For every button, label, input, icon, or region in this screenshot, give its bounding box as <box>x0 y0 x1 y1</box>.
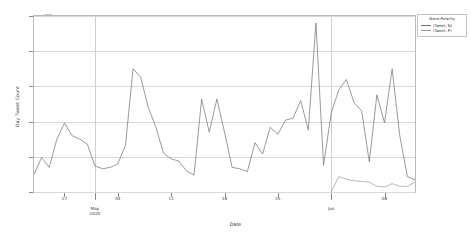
x-month-label: Jun <box>328 206 335 211</box>
x-tick-mark <box>171 193 172 197</box>
x-tick-mark <box>64 193 65 197</box>
x-tick-label: 08 <box>382 197 387 201</box>
series-svg <box>34 16 415 192</box>
series-line <box>34 23 415 188</box>
x-tick-label: 27 <box>62 197 67 201</box>
legend-item-label: (Tweet, P) <box>433 29 452 33</box>
series-line <box>331 177 415 192</box>
plot-area <box>33 15 416 193</box>
legend-line-icon <box>421 30 431 31</box>
x-tick-mark <box>385 193 386 197</box>
chart-figure: Day Tweet Count 050100150200250 27041118… <box>0 0 471 242</box>
legend-title: None,Polarity <box>421 17 463 22</box>
x-month-tick-mark <box>331 193 332 200</box>
x-tick-label: 11 <box>168 197 173 201</box>
x-tick-mark <box>278 193 279 197</box>
x-tick-label: 04 <box>115 197 120 201</box>
x-month-label: May2020 <box>90 206 101 217</box>
y-axis-title: Day Tweet Count <box>15 62 20 152</box>
x-tick-mark <box>225 193 226 197</box>
legend-items: (Tweet, N)(Tweet, P) <box>421 23 463 33</box>
x-tick-mark <box>118 193 119 197</box>
legend-item-label: (Tweet, N) <box>433 24 452 28</box>
x-tick-label: 18 <box>222 197 227 201</box>
x-axis-title: Date <box>0 222 471 227</box>
legend-item[interactable]: (Tweet, P) <box>421 28 463 33</box>
legend-line-icon <box>421 25 431 26</box>
data-lines <box>34 16 415 192</box>
legend: None,Polarity (Tweet, N)(Tweet, P) <box>417 14 467 37</box>
gridline-horizontal <box>34 192 415 193</box>
x-tick-label: 25 <box>275 197 280 201</box>
x-month-tick-mark <box>95 193 96 200</box>
